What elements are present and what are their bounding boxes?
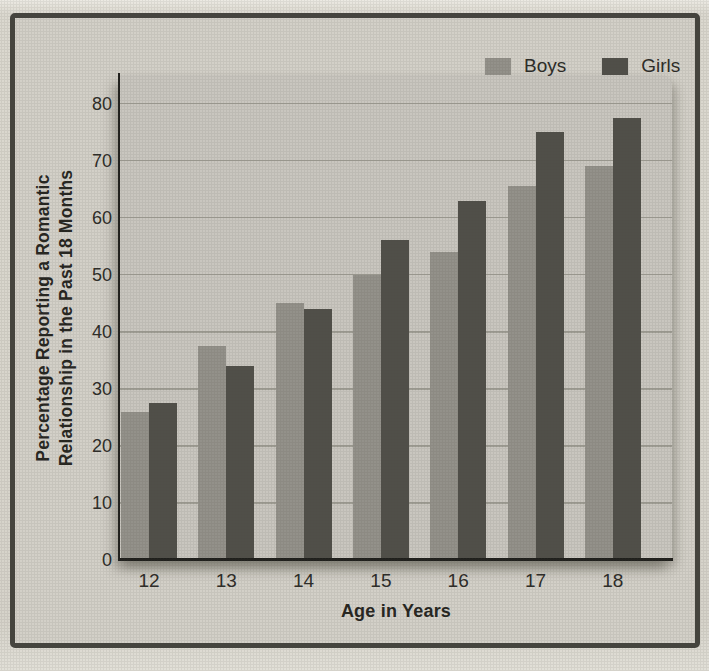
bar-boys-15: [353, 275, 381, 560]
y-axis: [118, 73, 121, 560]
y-tick-label-80: 80: [0, 93, 112, 115]
x-tick-label-12: 12: [124, 570, 174, 592]
x-tick-label-17: 17: [511, 570, 561, 592]
bar-boys-14: [276, 303, 304, 560]
x-tick-label-18: 18: [588, 570, 638, 592]
bar-boys-12: [121, 412, 149, 560]
legend-label-girls: Girls: [641, 55, 680, 77]
gridline-70: [120, 160, 672, 162]
bar-girls-14: [304, 309, 332, 560]
plot-panel: [120, 75, 672, 560]
legend-item-boys: Boys: [485, 55, 566, 77]
bar-girls-16: [458, 201, 486, 560]
bar-girls-15: [381, 240, 409, 560]
x-tick-label-16: 16: [433, 570, 483, 592]
legend-label-boys: Boys: [524, 55, 566, 77]
y-axis-title-line2: Relationship in the Past 18 Months: [55, 170, 78, 467]
gridline-80: [120, 103, 672, 105]
bar-boys-13: [198, 346, 226, 560]
y-tick-label-10: 10: [0, 492, 112, 514]
scanned-page: Boys Girls 01020304050607080 12131415161…: [0, 0, 709, 671]
bar-boys-16: [430, 252, 458, 560]
bar-girls-18: [613, 118, 641, 560]
x-tick-label-13: 13: [201, 570, 251, 592]
bar-boys-18: [585, 166, 613, 560]
y-tick-label-70: 70: [0, 150, 112, 172]
boys-swatch-icon: [485, 58, 511, 75]
chart-legend: Boys Girls: [485, 55, 680, 77]
girls-swatch-icon: [602, 58, 628, 75]
x-axis-title: Age in Years: [120, 601, 672, 622]
bar-boys-17: [508, 186, 536, 560]
legend-item-girls: Girls: [602, 55, 680, 77]
y-axis-title-line1: Percentage Reporting a Romantic: [32, 170, 55, 467]
bar-girls-17: [536, 132, 564, 560]
x-axis: [118, 558, 673, 561]
bar-girls-12: [149, 403, 177, 560]
y-axis-title: Percentage Reporting a Romantic Relation…: [32, 170, 78, 467]
x-tick-label-15: 15: [356, 570, 406, 592]
x-tick-label-14: 14: [279, 570, 329, 592]
bar-girls-13: [226, 366, 254, 560]
y-tick-label-0: 0: [0, 549, 112, 571]
x-tick-labels: 12131415161718: [120, 570, 672, 594]
